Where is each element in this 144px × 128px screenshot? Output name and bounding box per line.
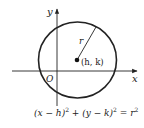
origin-label: O	[46, 74, 54, 84]
equation-plus: +	[69, 108, 82, 118]
equation-term-x: (x − h)	[34, 108, 66, 118]
center-label: (h, k)	[81, 57, 104, 67]
x-axis-label: x	[132, 73, 138, 84]
radius-label: r	[79, 36, 84, 46]
equation-equals: =	[117, 108, 130, 118]
equation-exponent-3: 2	[135, 106, 139, 113]
center-point	[75, 58, 80, 63]
y-axis-label: y	[46, 6, 53, 17]
circle-equation: (x − h)2 + (y − k)2 = r2	[34, 106, 139, 118]
equation-term-y: (y − k)	[82, 108, 113, 118]
circle-equation-diagram: y x O r (h, k) (x − h)2 + (y − k)2 = r2	[0, 0, 144, 128]
